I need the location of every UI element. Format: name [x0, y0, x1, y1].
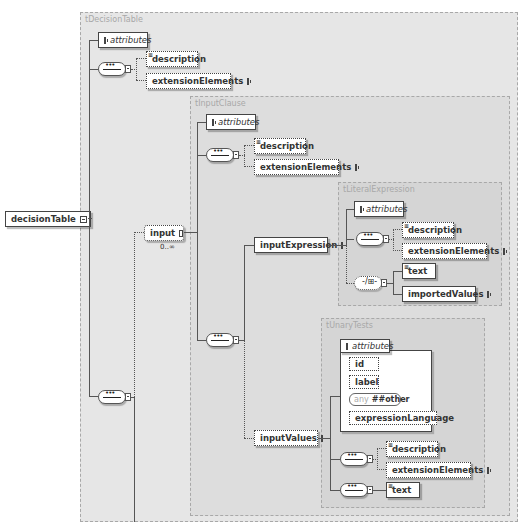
connector	[346, 209, 347, 246]
decision-table-node[interactable]: decisionTable	[5, 211, 91, 227]
node-label: description	[260, 141, 314, 151]
node-label: description	[152, 54, 206, 64]
connector	[89, 40, 98, 41]
node-label: extensionElements	[152, 76, 243, 86]
node-label: id	[355, 359, 364, 369]
node-label: label	[355, 377, 378, 387]
occurrence-label: 0..∞	[160, 243, 175, 251]
connector	[136, 58, 146, 59]
connector	[89, 396, 98, 397]
collapse-icon[interactable]	[346, 343, 348, 350]
connector	[330, 459, 340, 460]
imported-values-node[interactable]: importedValues	[402, 286, 476, 302]
connector	[89, 69, 98, 70]
node-label: attributes	[366, 204, 408, 214]
input-node[interactable]: input	[144, 225, 184, 241]
connector	[134, 397, 135, 522]
connector	[244, 438, 254, 439]
node-label: text	[408, 266, 427, 276]
collapse-icon[interactable]	[80, 216, 87, 223]
connector	[377, 469, 386, 470]
expand-icon[interactable]	[212, 119, 214, 126]
node-label: attributes	[110, 35, 152, 45]
connector	[330, 396, 340, 397]
type-label: tDecisionTable	[85, 15, 143, 24]
text-node[interactable]: ≡ text	[402, 263, 436, 279]
description-node[interactable]: ≡ description	[386, 441, 438, 457]
connector	[330, 490, 340, 491]
attr-expression-language[interactable]: expressionLanguage	[349, 411, 437, 425]
description-node[interactable]: ≡ description	[254, 138, 306, 154]
input-expression-node[interactable]: inputExpression	[254, 237, 328, 253]
extension-elements-node[interactable]: extensionElements	[386, 462, 471, 478]
any-attribute[interactable]: any ##other	[349, 393, 401, 406]
connector	[393, 294, 402, 295]
sequence-compositor	[206, 148, 234, 162]
connector	[184, 232, 198, 233]
connector	[346, 209, 354, 210]
expand-icon[interactable]	[247, 78, 249, 85]
attributes-header[interactable]: attributes	[340, 339, 390, 353]
expand-icon[interactable]	[104, 37, 106, 44]
node-label: attributes	[352, 341, 394, 351]
attributes-node[interactable]: attributes	[206, 114, 256, 130]
attr-label[interactable]: label	[349, 375, 379, 389]
node-label: expressionLanguage	[355, 413, 454, 423]
node-label: description	[392, 444, 446, 454]
node-label: extensionElements	[392, 465, 483, 475]
connector	[197, 122, 206, 123]
expand-icon[interactable]	[360, 206, 362, 213]
node-label: text	[392, 485, 411, 495]
connector	[393, 271, 394, 295]
attributes-node[interactable]: attributes	[354, 201, 404, 217]
connector	[244, 340, 245, 438]
connector	[197, 340, 206, 341]
extension-elements-node[interactable]: extensionElements	[254, 159, 339, 175]
input-values-node[interactable]: inputValues	[254, 430, 318, 446]
type-label: tLiteralExpression	[343, 185, 415, 194]
sequence-compositor	[206, 333, 234, 347]
attr-id[interactable]: id	[349, 357, 379, 371]
connector	[244, 166, 254, 167]
connector	[244, 245, 254, 246]
attributes-node[interactable]: attributes	[98, 32, 148, 48]
connector	[134, 232, 135, 397]
description-node[interactable]: ≡ description	[402, 222, 454, 238]
sequence-compositor	[98, 62, 126, 76]
connector	[346, 239, 354, 240]
connector	[393, 229, 402, 230]
type-label: tUnaryTests	[326, 321, 373, 330]
extension-elements-node[interactable]: extensionElements	[146, 73, 231, 89]
sequence-compositor	[340, 483, 368, 497]
connector	[91, 218, 92, 219]
connector	[393, 271, 402, 272]
expand-icon[interactable]	[503, 248, 505, 255]
connector	[346, 245, 347, 283]
sequence-compositor	[98, 390, 126, 404]
choice-compositor: -/⊞-	[354, 276, 382, 290]
connector	[134, 232, 144, 233]
description-node[interactable]: ≡ description	[146, 51, 198, 67]
text-node[interactable]: ≡ text	[386, 482, 420, 498]
node-label: attributes	[218, 117, 260, 127]
expand-icon[interactable]	[487, 291, 489, 298]
connector	[244, 145, 254, 146]
connector	[318, 438, 330, 439]
connector	[89, 40, 90, 397]
node-label: importedValues	[408, 289, 483, 299]
connector	[377, 448, 378, 470]
sequence-compositor	[340, 452, 368, 466]
expand-icon[interactable]	[355, 164, 357, 171]
collapse-icon[interactable]	[179, 230, 183, 237]
connector	[346, 283, 354, 284]
connector	[393, 229, 394, 251]
node-label: inputExpression	[260, 240, 337, 250]
node-label: extensionElements	[260, 162, 351, 172]
connector	[330, 396, 331, 491]
node-label: extensionElements	[408, 246, 499, 256]
extension-elements-node[interactable]: extensionElements	[402, 243, 487, 259]
expand-icon[interactable]	[487, 467, 489, 474]
connector	[328, 245, 346, 246]
node-label: decisionTable	[11, 214, 76, 224]
connector	[197, 155, 206, 156]
